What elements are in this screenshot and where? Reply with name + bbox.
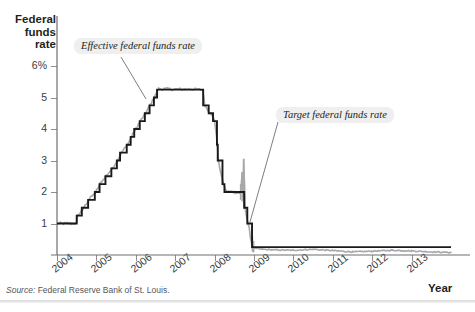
source-word: Source:: [6, 285, 35, 295]
figure-federal-funds-rate: Federal funds rate Year 6%54321200420052…: [0, 0, 475, 312]
source-text: Federal Reserve Bank of St. Louis.: [38, 285, 170, 295]
bottom-divider: [0, 300, 475, 303]
leader-line-target: [250, 122, 278, 222]
callout-target-rate: Target federal funds rate: [276, 107, 394, 123]
plot-area: [0, 0, 475, 312]
callout-effective-rate: Effective federal funds rate: [74, 38, 202, 54]
leader-line-effective: [121, 57, 146, 99]
source-note: Source: Federal Reserve Bank of St. Loui…: [6, 285, 170, 295]
